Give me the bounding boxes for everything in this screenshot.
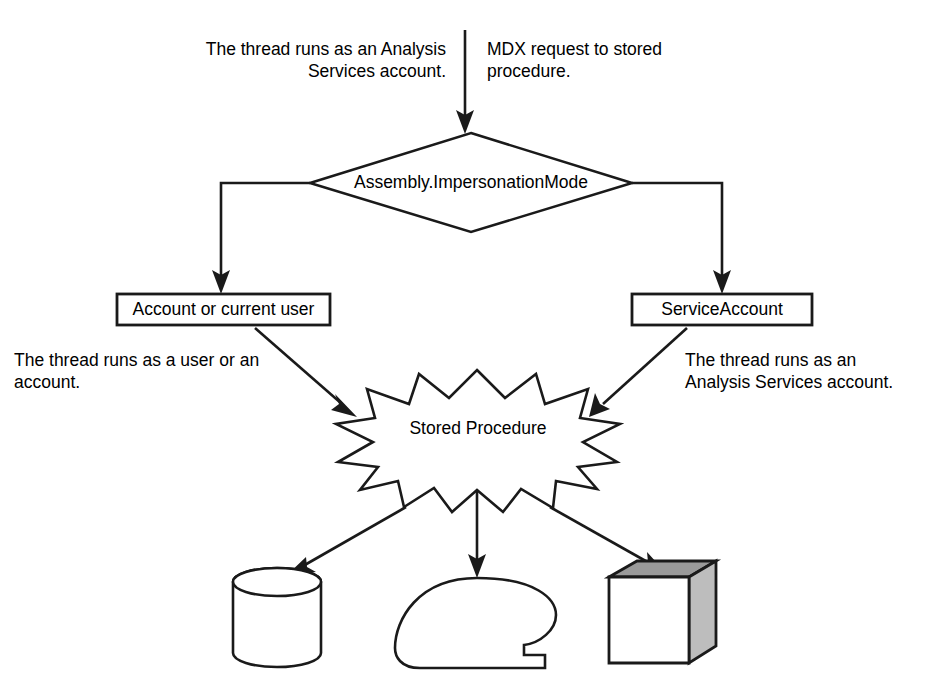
edge-decision-to-branch-left xyxy=(212,183,310,294)
stored-procedure-label: Stored Procedure xyxy=(368,418,588,439)
edge-stored-procedure-to-loop xyxy=(468,490,486,578)
cube-shape xyxy=(609,561,716,663)
diagram-canvas xyxy=(0,0,931,694)
decision-diamond-label: Assembly.ImpersonationMode xyxy=(310,172,632,193)
caption-bottom-left: The thread runs as a user or an account. xyxy=(14,349,276,393)
stored-data-loop-shape xyxy=(395,578,556,668)
caption-top-left: The thread runs as an Analysis Services … xyxy=(198,38,446,82)
caption-top-right: MDX request to stored procedure. xyxy=(487,38,717,82)
edge-branch-right-to-stored-procedure xyxy=(589,328,687,417)
flowchart-diagram: The thread runs as an Analysis Services … xyxy=(0,0,931,694)
branch-left-box-label: Account or current user xyxy=(117,299,330,320)
branch-right-box-label: ServiceAccount xyxy=(632,299,812,320)
edge-request-to-decision xyxy=(456,30,474,134)
caption-bottom-right: The thread runs as an Analysis Services … xyxy=(685,349,925,393)
database-cylinder-shape xyxy=(233,568,321,667)
edge-decision-to-branch-right xyxy=(632,183,731,294)
edge-stored-procedure-to-database xyxy=(287,507,406,575)
